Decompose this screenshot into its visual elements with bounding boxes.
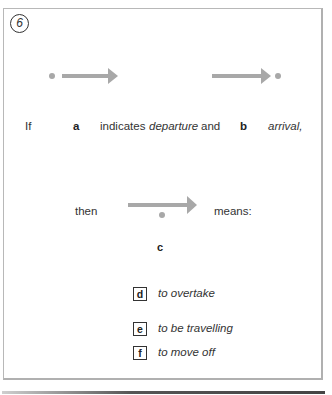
option-e-letter-box: e xyxy=(133,322,147,336)
text-if: If xyxy=(25,120,31,132)
exercise-number: 6 xyxy=(10,14,29,33)
text-then: then xyxy=(75,205,97,217)
overtake-arrow-icon xyxy=(126,193,202,221)
text-departure: departure xyxy=(149,120,198,132)
bottom-rule xyxy=(2,391,325,394)
option-d-letter-box: d xyxy=(133,287,147,301)
option-d-text: to overtake xyxy=(158,287,215,299)
departure-arrow-icon xyxy=(46,66,122,86)
arrival-arrow-icon xyxy=(210,66,286,86)
label-a: a xyxy=(73,120,79,132)
text-and: and xyxy=(201,120,220,132)
text-indicates: indicates xyxy=(100,120,145,132)
option-f-text: to move off xyxy=(158,346,215,358)
text-arrival: arrival, xyxy=(268,120,303,132)
text-means: means: xyxy=(214,205,252,217)
option-e-text: to be travelling xyxy=(158,322,233,334)
label-c: c xyxy=(157,241,163,253)
label-b: b xyxy=(240,120,247,132)
option-f-letter-box: f xyxy=(133,346,147,360)
